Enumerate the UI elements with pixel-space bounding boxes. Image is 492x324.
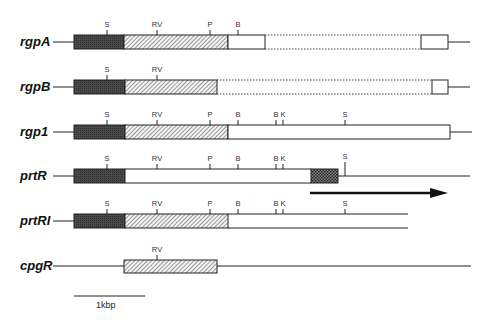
site-label: K [280,110,285,119]
site-label: B [235,154,240,163]
gene-label-rgpB: rgpB [20,79,50,94]
site-label: S [104,65,109,74]
site-label: S [104,110,109,119]
gene-label-rgpA: rgpA [20,34,50,49]
site-label: RV [152,245,162,254]
site-label: P [207,20,212,29]
site-label: RV [152,154,162,163]
site-label: B [273,154,278,163]
gene-label-cpgR: cpgR [20,258,53,273]
gene-label-prtR: prtR [20,168,47,183]
row-rgpA [53,30,470,49]
site-label: RV [152,199,162,208]
site-label: S [104,20,109,29]
gene-map-diagram [0,0,492,324]
site-label: P [207,154,212,163]
site-label: K [280,154,285,163]
site-label: S [104,199,109,208]
site-label: P [207,199,212,208]
site-label: S [104,154,109,163]
row-rgp1 [53,120,472,139]
row-prtR [53,162,470,198]
scale-bar-label: 1kbp [96,300,116,310]
row-cpgR [53,255,471,273]
site-label: B [235,110,240,119]
site-label: S [342,199,347,208]
site-label: RV [152,110,162,119]
site-label: RV [152,65,162,74]
site-label: S [342,110,347,119]
transcription-arrow [310,188,448,198]
site-label: B [235,199,240,208]
row-prtRI [53,209,408,228]
site-label: P [207,110,212,119]
site-label: B [273,199,278,208]
site-label: B [273,110,278,119]
site-label: B [235,20,240,29]
gene-label-prtRI: prtRI [20,213,50,228]
site-label: RV [152,20,162,29]
site-label: S [342,152,347,161]
gene-label-rgp1: rgp1 [20,124,48,139]
row-rgpB [53,75,470,94]
site-label: K [280,199,285,208]
